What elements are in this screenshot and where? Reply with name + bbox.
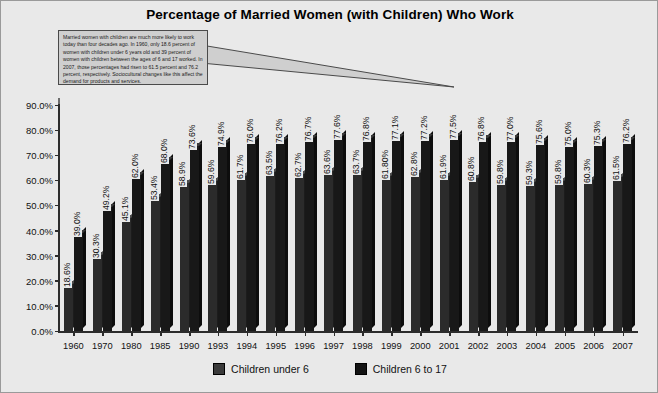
bar-front-face bbox=[208, 181, 217, 331]
bar-6to17[interactable] bbox=[392, 137, 401, 331]
x-axis-tick-mark bbox=[334, 331, 336, 336]
bar-front-face bbox=[555, 181, 564, 331]
bar-under6[interactable] bbox=[93, 255, 102, 331]
bar-front-face bbox=[565, 143, 574, 331]
x-axis-line bbox=[58, 331, 638, 333]
bar-front-face bbox=[324, 171, 333, 331]
bar-value-label: 61.9% bbox=[439, 153, 448, 179]
bar-6to17[interactable] bbox=[247, 140, 256, 331]
bar-front-face bbox=[295, 174, 304, 331]
bar-6to17[interactable] bbox=[450, 136, 459, 331]
bar-under6[interactable] bbox=[266, 172, 275, 331]
bar-value-label: 58.9% bbox=[178, 161, 187, 187]
bar-front-face bbox=[411, 173, 420, 331]
bar-under6[interactable] bbox=[584, 180, 593, 331]
bar-6to17[interactable] bbox=[334, 136, 343, 331]
bar-value-label: 60.8% bbox=[467, 156, 476, 182]
bar-value-label: 76.8% bbox=[362, 116, 371, 142]
bar-side-face bbox=[170, 154, 173, 328]
bar-value-label: 59.8% bbox=[496, 158, 505, 184]
bar-under6[interactable] bbox=[382, 176, 391, 331]
bar-6to17[interactable] bbox=[623, 140, 632, 331]
bar-value-label: 77.1% bbox=[391, 115, 400, 141]
bar-side-face bbox=[430, 131, 433, 328]
bar-under6[interactable] bbox=[324, 171, 333, 331]
bar-under6[interactable] bbox=[613, 177, 622, 331]
bar-6to17[interactable] bbox=[421, 137, 430, 331]
x-axis-tick-mark bbox=[218, 331, 220, 336]
bar-front-face bbox=[584, 180, 593, 331]
bar-value-label: 61.80% bbox=[381, 149, 390, 180]
bar-front-face bbox=[64, 284, 73, 331]
bar-front-face bbox=[421, 137, 430, 331]
y-axis-tick-label: 30.0% bbox=[3, 250, 53, 261]
bar-front-face bbox=[469, 178, 478, 331]
bar-value-label: 59.3% bbox=[525, 160, 534, 186]
x-axis-tick-label: 2007 bbox=[603, 341, 643, 351]
bar-value-label: 62.7% bbox=[294, 151, 303, 177]
bar-under6[interactable] bbox=[353, 171, 362, 331]
bar-under6[interactable] bbox=[122, 218, 131, 331]
bar-value-label: 73.6% bbox=[188, 124, 197, 150]
bar-side-face bbox=[256, 134, 259, 328]
bar-value-label: 68.0% bbox=[160, 138, 169, 164]
bar-front-face bbox=[497, 181, 506, 331]
bar-6to17[interactable] bbox=[190, 146, 199, 331]
x-axis-tick-mark bbox=[623, 331, 625, 336]
bar-6to17[interactable] bbox=[305, 138, 314, 331]
bar-under6[interactable] bbox=[64, 284, 73, 331]
legend-item-under6[interactable]: Children under 6 bbox=[213, 363, 309, 375]
bar-front-face bbox=[594, 142, 603, 331]
chart-title: Percentage of Married Women (with Childr… bbox=[1, 7, 658, 22]
bar-value-label: 76.2% bbox=[275, 117, 284, 143]
bar-under6[interactable] bbox=[440, 176, 449, 331]
bar-front-face bbox=[151, 197, 160, 331]
bar-under6[interactable] bbox=[237, 176, 246, 331]
bar-front-face bbox=[122, 218, 131, 331]
bar-6to17[interactable] bbox=[161, 160, 170, 331]
bar-value-label: 76.8% bbox=[477, 116, 486, 142]
bar-6to17[interactable] bbox=[363, 138, 372, 331]
x-axis-tick-mark bbox=[391, 331, 393, 336]
chart-legend: Children under 6 Children 6 to 17 bbox=[1, 363, 658, 375]
bar-front-face bbox=[247, 140, 256, 331]
y-axis-tick-label: 0.0% bbox=[3, 326, 53, 337]
bar-6to17[interactable] bbox=[536, 141, 545, 331]
legend-label-under6: Children under 6 bbox=[231, 363, 309, 375]
bar-side-face bbox=[632, 134, 635, 328]
bar-under6[interactable] bbox=[411, 173, 420, 331]
bar-under6[interactable] bbox=[295, 174, 304, 331]
bar-under6[interactable] bbox=[555, 181, 564, 331]
bar-front-face bbox=[507, 138, 516, 331]
bar-front-face bbox=[479, 138, 488, 331]
bar-front-face bbox=[450, 136, 459, 331]
bar-under6[interactable] bbox=[497, 181, 506, 331]
x-axis-tick-mark bbox=[362, 331, 364, 336]
bar-value-label: 76.7% bbox=[304, 116, 313, 142]
bar-value-label: 75.0% bbox=[564, 120, 573, 146]
bar-6to17[interactable] bbox=[565, 143, 574, 331]
y-axis-tick-label: 60.0% bbox=[3, 175, 53, 186]
bar-front-face bbox=[392, 137, 401, 331]
bar-6to17[interactable] bbox=[276, 140, 285, 331]
annotation-text: Married women with children are much mor… bbox=[58, 30, 208, 85]
bar-under6[interactable] bbox=[208, 181, 217, 331]
bar-6to17[interactable] bbox=[103, 207, 112, 331]
bar-front-face bbox=[132, 175, 141, 331]
bar-under6[interactable] bbox=[526, 182, 535, 331]
bar-under6[interactable] bbox=[469, 178, 478, 331]
bar-side-face bbox=[603, 136, 606, 328]
bar-6to17[interactable] bbox=[132, 175, 141, 331]
bar-6to17[interactable] bbox=[479, 138, 488, 331]
legend-item-6to17[interactable]: Children 6 to 17 bbox=[355, 363, 447, 375]
bar-front-face bbox=[276, 140, 285, 331]
bar-6to17[interactable] bbox=[218, 143, 227, 331]
bar-under6[interactable] bbox=[180, 183, 189, 331]
bar-6to17[interactable] bbox=[507, 138, 516, 331]
bar-6to17[interactable] bbox=[594, 142, 603, 331]
callout-tail-icon bbox=[201, 45, 461, 95]
bar-6to17[interactable] bbox=[74, 233, 83, 331]
bar-value-label: 75.3% bbox=[593, 120, 602, 146]
x-axis-tick-mark bbox=[536, 331, 538, 336]
bar-under6[interactable] bbox=[151, 197, 160, 331]
